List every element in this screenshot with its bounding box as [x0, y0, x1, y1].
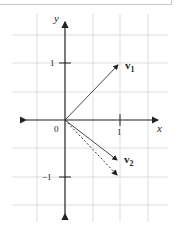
x-axis-label: x — [156, 122, 162, 134]
vector-v1 — [65, 65, 118, 120]
v1-label: v1 — [125, 59, 135, 74]
x-tick-label-1: 1 — [117, 127, 122, 137]
vector-diagram: y x 0 1 −1 1 v1 v2 — [0, 0, 178, 234]
axes — [26, 22, 158, 214]
vector-v2 — [65, 120, 117, 160]
y-axis-label: y — [53, 12, 59, 24]
v2-label: v2 — [124, 153, 134, 168]
y-tick-label-neg1: −1 — [42, 172, 52, 182]
y-tick-label-1: 1 — [50, 58, 55, 68]
origin-label: 0 — [54, 124, 59, 134]
grid — [12, 14, 168, 222]
vector-dotted — [65, 120, 117, 175]
